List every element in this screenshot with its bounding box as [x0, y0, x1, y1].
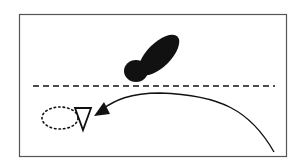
- diagram-canvas: [0, 0, 307, 164]
- blob-small: [124, 60, 148, 82]
